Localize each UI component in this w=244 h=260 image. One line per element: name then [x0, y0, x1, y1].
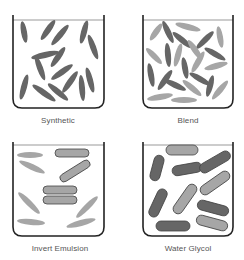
particle-light [144, 46, 164, 66]
label-invert-emulsion: Invert Emulsion [5, 244, 115, 253]
particle-light [16, 190, 41, 215]
rod-light [171, 182, 199, 216]
particle-dark [49, 45, 68, 68]
fluid-comparison-diagram [0, 0, 244, 260]
particle-light [17, 152, 43, 158]
rod-light [198, 169, 232, 197]
rod-light [195, 214, 228, 232]
particle-light [147, 92, 174, 102]
rod-dark [149, 154, 165, 182]
rod-light [58, 159, 91, 184]
particle-dark [86, 34, 101, 60]
rod-light [43, 196, 77, 204]
rod-dark [147, 187, 169, 218]
particle-dark [194, 29, 215, 50]
particle-light [148, 22, 164, 42]
particle-dark [180, 57, 190, 80]
rod-dark [171, 161, 202, 176]
particle-dark [203, 45, 227, 62]
label-water-glycol: Water Glycol [133, 244, 243, 253]
particle-light [171, 97, 197, 103]
rod-dark [198, 149, 232, 175]
particle-light [204, 60, 229, 72]
particle-light [74, 194, 99, 219]
particle-dark [164, 43, 172, 67]
particle-dark [163, 77, 187, 93]
particle-dark [146, 63, 156, 88]
label-blend: Blend [133, 116, 243, 125]
particle-light [175, 21, 202, 34]
particle-dark [19, 21, 29, 44]
rod-dark [156, 221, 190, 231]
beaker-water-glycol [143, 142, 233, 236]
rod-light [166, 145, 198, 155]
rod-light [55, 149, 89, 157]
particle-dark [84, 67, 97, 94]
label-synthetic: Synthetic [3, 116, 113, 125]
particle-light [66, 216, 97, 230]
rod-light [43, 186, 77, 194]
particle-light [17, 218, 45, 226]
beaker-invert-emulsion [13, 142, 104, 236]
beaker-blend [143, 15, 233, 108]
particle-light [215, 26, 225, 49]
particle-light [18, 158, 46, 175]
rod-dark [196, 199, 229, 217]
beaker-synthetic [13, 15, 104, 108]
particle-dark [78, 75, 86, 101]
particle-dark [18, 74, 31, 101]
